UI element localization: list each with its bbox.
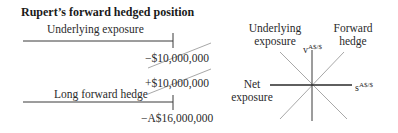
- diagram-title: Rupert’s forward hedged position: [21, 6, 194, 18]
- underlying-exposure-label: Underlying exposure: [47, 24, 144, 36]
- payoff-underlying-label-line1: Underlying: [245, 23, 305, 35]
- payoff-forward-label: Forward hedge: [328, 23, 378, 47]
- payoff-net-label-line2: exposure: [230, 92, 274, 104]
- long-forward-hedge-label: Long forward hedge: [54, 89, 148, 101]
- x-axis-label: sA$/$: [355, 82, 373, 93]
- payoff-net-label: Net exposure: [230, 79, 274, 103]
- underlying-exposure-value: −$10,000,000: [145, 53, 209, 65]
- y-axis-label: vA$/$: [303, 44, 322, 55]
- payoff-net-label-line1: Net: [230, 79, 274, 91]
- y-axis-label-sup: A$/$: [308, 43, 322, 51]
- payoff-forward-label-line1: Forward: [328, 23, 378, 35]
- payoff-forward-label-line2: hedge: [328, 36, 378, 48]
- hedge-aud-value: −A$16,000,000: [141, 113, 213, 125]
- hedge-usd-value: +$10,000,000: [145, 78, 209, 90]
- payoff-underlying-label-line2: exposure: [245, 36, 305, 48]
- x-axis-label-sup: A$/$: [359, 81, 373, 89]
- payoff-underlying-label: Underlying exposure: [245, 23, 305, 47]
